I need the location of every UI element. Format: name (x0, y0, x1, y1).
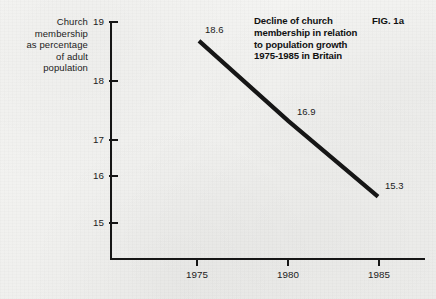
plot-area (0, 0, 436, 299)
data-point-label-1985: 15.3 (385, 180, 404, 191)
chart-title-line: Decline of church (254, 15, 366, 27)
chart-title-line: membership in relation (254, 27, 366, 39)
chart-title-line: 1975-1985 in Britain (254, 50, 366, 62)
chart-title: Decline of church membership in relation… (254, 15, 366, 62)
data-point-label-1975: 18.6 (205, 24, 224, 35)
chart-figure: Church membership as percentage of adult… (0, 0, 436, 299)
chart-title-line: to population growth (254, 39, 366, 51)
data-point-label-1980: 16.9 (297, 106, 316, 117)
series-polyline (199, 41, 378, 197)
figure-number-label: FIG. 1a (372, 15, 404, 26)
data-series-line (0, 0, 436, 299)
